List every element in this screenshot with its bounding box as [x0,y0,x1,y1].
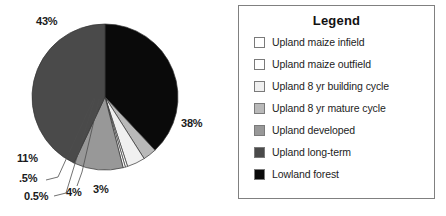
legend-box: Legend Upland maize infieldUpland maize … [238,5,435,199]
legend-item-label: Upland developed [272,124,355,136]
legend-swatch-icon [254,59,265,70]
legend-item[interactable]: Upland maize outfield [254,53,434,75]
pie-slices-group [32,24,178,170]
slice-label-3: 3% [93,183,109,195]
legend-item[interactable]: Upland 8 yr mature cycle [254,97,434,119]
legend-item[interactable]: Upland 8 yr building cycle [254,75,434,97]
legend-item-label: Upland maize outfield [272,58,371,70]
legend-item-label: Upland 8 yr mature cycle [272,102,386,114]
legend-title: Legend [239,13,434,28]
legend-item-label: Upland 8 yr building cycle [272,80,389,92]
legend-swatch-icon [254,125,265,136]
legend-list: Upland maize infieldUpland maize outfiel… [239,31,434,185]
legend-item-label: Upland long-term [272,146,351,158]
legend-swatch-icon [254,147,265,158]
legend-item-label: Lowland forest [272,168,339,180]
legend-swatch-icon [254,81,265,92]
slice-label-4: 4% [66,186,82,198]
slice-label-38: 38% [181,117,202,129]
legend-item[interactable]: Lowland forest [254,163,434,185]
legend-item-label: Upland maize infield [272,36,365,48]
legend-swatch-icon [254,103,265,114]
legend-item[interactable]: Upland developed [254,119,434,141]
legend-swatch-icon [254,37,265,48]
slice-label-11: 11% [17,152,38,164]
chart-figure: 43% 38% 11% .5% 0.5% 4% 3% Legend Upland… [0,0,446,216]
slice-label-43: 43% [36,15,57,27]
slice-label-0point5: 0.5% [24,190,48,202]
legend-item[interactable]: Upland long-term [254,141,434,163]
legend-item[interactable]: Upland maize infield [254,31,434,53]
slice-label-point5: .5% [19,172,37,184]
legend-swatch-icon [254,169,265,180]
pie-chart-panel: 43% 38% 11% .5% 0.5% 4% 3% [0,0,230,216]
